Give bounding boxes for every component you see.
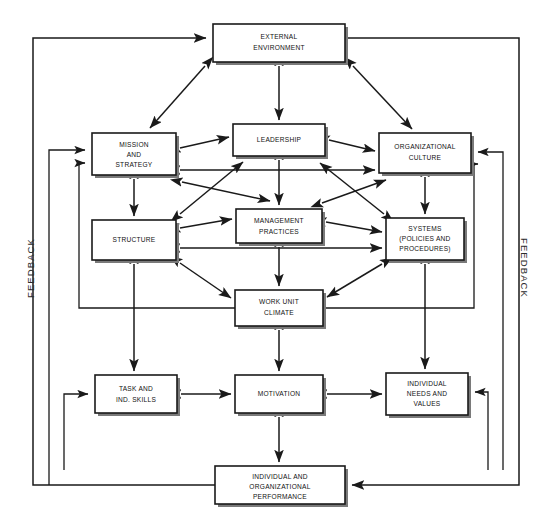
performance-line-3: PERFORMANCE — [253, 493, 307, 500]
burke-litwin-diagram: EXTERNAL ENVIRONMENT MISSION AND STRATEG… — [0, 0, 552, 522]
systems-line-1: SYSTEMS — [408, 225, 442, 232]
leadership-line-1: LEADERSHIP — [257, 136, 302, 143]
mission-and-strategy-line-1: MISSION — [119, 141, 149, 148]
edge-structure-climate — [180, 263, 231, 298]
node-structure[interactable]: STRUCTURE — [92, 220, 179, 263]
task-and-ind-skills-line-1: TASK AND — [119, 385, 153, 392]
organizational-culture-line-1: ORGANIZATIONAL — [394, 143, 455, 150]
performance-line-1: INDIVIDUAL AND — [252, 473, 308, 480]
edge-ee-mission — [150, 66, 205, 128]
diagram-canvas: EXTERNAL ENVIRONMENT MISSION AND STRATEG… — [0, 0, 552, 522]
edge-ee-culture — [353, 66, 412, 129]
mission-and-strategy-line-2: AND — [127, 151, 142, 158]
node-individual-needs-and-values[interactable]: INDIVIDUAL NEEDS AND VALUES — [386, 373, 471, 418]
node-mission-and-strategy[interactable]: MISSION AND STRATEGY — [92, 133, 179, 178]
node-work-unit-climate[interactable]: WORK UNIT CLIMATE — [235, 290, 326, 329]
feedback-label-right: FEEDBACK — [519, 238, 530, 298]
systems-line-2: (POLICIES AND — [399, 235, 450, 243]
node-systems[interactable]: SYSTEMS (POLICIES AND PROCEDURES) — [386, 218, 467, 263]
systems-line-3: PROCEDURES) — [399, 245, 450, 253]
node-external-environment[interactable]: EXTERNAL ENVIRONMENT — [213, 24, 348, 65]
management-practices-line-1: MANAGEMENT — [254, 217, 304, 224]
node-task-and-ind-skills[interactable]: TASK AND IND. SKILLS — [95, 375, 180, 416]
mission-and-strategy-line-3: STRATEGY — [115, 161, 152, 168]
edge-leadership-culture — [329, 140, 375, 151]
edge-mgmt-systems — [326, 222, 382, 232]
structure-line-1: STRUCTURE — [113, 236, 156, 243]
edge-systems-climate — [327, 264, 382, 297]
edge-structure-mgmt — [180, 219, 232, 228]
node-individual-and-organizational-performance[interactable]: INDIVIDUAL AND ORGANIZATIONAL PERFORMANC… — [215, 466, 348, 507]
node-motivation[interactable]: MOTIVATION — [235, 375, 326, 416]
edge-mission-mgmt — [182, 182, 270, 201]
feedback-rail-right-upper — [478, 152, 503, 470]
individual-needs-line-3: VALUES — [413, 400, 440, 407]
edge-mgmt-culture — [322, 180, 386, 203]
feedback-rail-right-lower — [475, 392, 488, 470]
performance-line-2: ORGANIZATIONAL — [249, 483, 310, 490]
node-organizational-culture[interactable]: ORGANIZATIONAL CULTURE — [379, 133, 474, 176]
node-leadership[interactable]: LEADERSHIP — [233, 124, 328, 159]
individual-needs-line-2: NEEDS AND — [407, 390, 447, 397]
edge-mission-leadership — [180, 137, 229, 148]
management-practices-line-2: PRACTICES — [259, 228, 299, 235]
task-and-ind-skills-line-2: IND. SKILLS — [116, 396, 156, 403]
feedback-rail-left-lower — [64, 394, 88, 470]
feedback-label-left: FEEDBACK — [25, 238, 36, 298]
external-environment-line-1: EXTERNAL — [261, 33, 298, 40]
individual-needs-line-1: INDIVIDUAL — [407, 380, 447, 387]
motivation-line-1: MOTIVATION — [258, 390, 301, 397]
external-environment-line-2: ENVIRONMENT — [253, 44, 304, 51]
node-management-practices[interactable]: MANAGEMENT PRACTICES — [236, 209, 325, 246]
organizational-culture-line-2: CULTURE — [409, 154, 442, 161]
work-unit-climate-line-2: CLIMATE — [264, 309, 294, 316]
work-unit-climate-line-1: WORK UNIT — [259, 298, 299, 305]
